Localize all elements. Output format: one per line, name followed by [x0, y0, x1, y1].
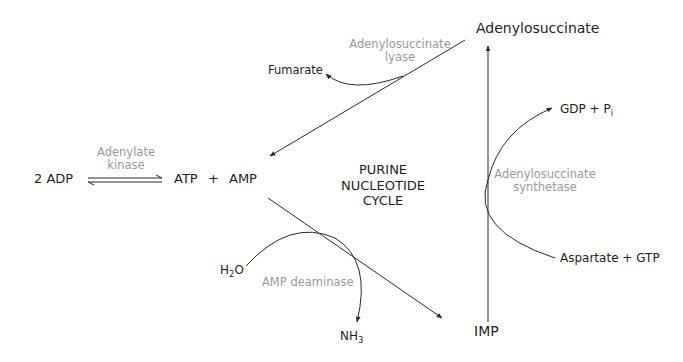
synthetase-line1: Adenylosuccinate: [490, 168, 600, 181]
adenylate-kinase-label: Adenylate kinase: [96, 146, 156, 171]
adenylate-kinase-line1: Adenylate: [96, 146, 156, 159]
amp-label: AMP: [229, 172, 257, 186]
lyase-line1: Adenylosuccinate: [345, 38, 455, 51]
atp-label: ATP: [174, 172, 198, 186]
cycle-title: PURINE NUCLEOTIDE CYCLE: [338, 162, 428, 209]
gdp-pi-label: GDP + Pi: [560, 103, 613, 118]
adenylosuccinate-lyase-label: Adenylosuccinate lyase: [345, 38, 455, 63]
fumarate-label: Fumarate: [268, 64, 323, 77]
adenylosuccinate-synthetase-label: Adenylosuccinate synthetase: [490, 168, 600, 193]
equilibrium-arrow: [88, 175, 162, 185]
plus-sign: +: [208, 172, 219, 186]
amp-deaminase-label: AMP deaminase: [262, 276, 354, 289]
nh3-subscript: 3: [358, 335, 363, 345]
title-line3: CYCLE: [338, 193, 428, 209]
gdp-text: GDP + P: [560, 102, 611, 116]
adenylate-kinase-line2: kinase: [96, 159, 156, 172]
nh3-nh: NH: [340, 329, 358, 343]
pi-subscript: i: [611, 108, 613, 118]
imp-label: IMP: [474, 324, 499, 339]
aspartate-gtp-label: Aspartate + GTP: [560, 252, 660, 265]
nh3-label: NH3: [340, 330, 363, 345]
deaminase-arrow: [268, 198, 442, 318]
h2o-label: H2O: [220, 264, 244, 279]
title-line1: PURINE: [338, 162, 428, 178]
h2o-h: H: [220, 263, 229, 277]
adenylosuccinate-label: Adenylosuccinate: [476, 21, 599, 36]
adp-label: 2 ADP: [34, 172, 73, 186]
lyase-line2: lyase: [345, 51, 455, 64]
title-line2: NUCLEOTIDE: [338, 178, 428, 194]
synthetase-line2: synthetase: [490, 181, 600, 194]
h2o-o: O: [234, 263, 243, 277]
